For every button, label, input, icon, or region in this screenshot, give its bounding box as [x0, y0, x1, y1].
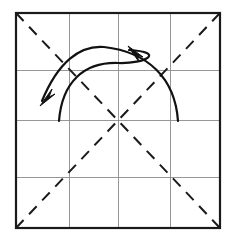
origami-canvas	[0, 0, 235, 252]
origami-diagram: Origami folding step diagram Square shee…	[0, 0, 235, 252]
